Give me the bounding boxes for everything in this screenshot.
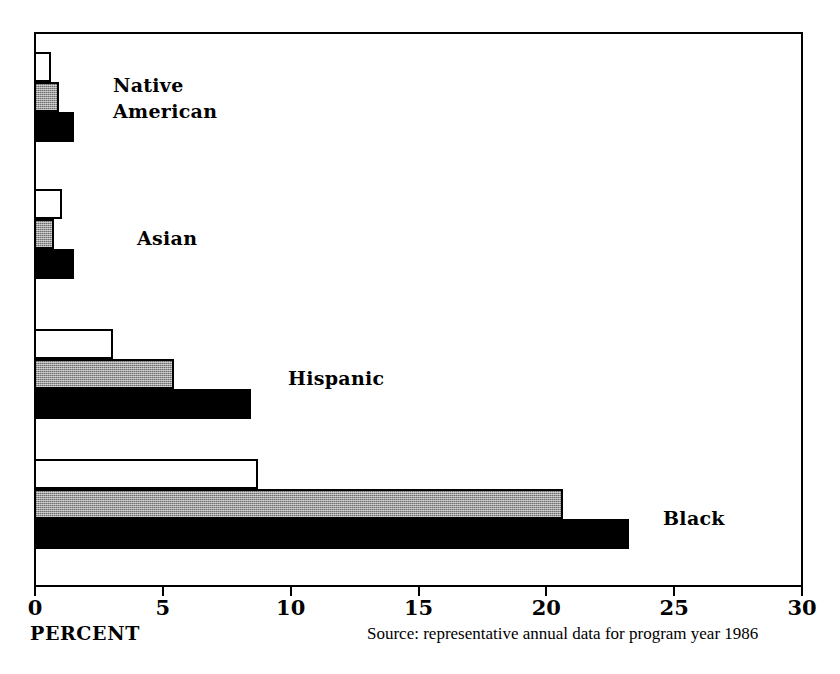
bar-black-black [36,519,629,549]
bar-asian-black [36,249,74,279]
bar-native-american-white [36,52,51,82]
bar-asian-white [36,189,62,219]
x-axis-title: PERCENT [30,622,140,644]
bar-asian-gray [36,219,54,249]
x-tick-label-10: 10 [276,596,305,620]
group-label-asian: Asian [137,225,197,251]
source-note: Source: representative annual data for p… [367,624,758,644]
bar-hispanic-white [36,329,113,359]
bar-native-american-black [36,112,74,142]
group-label-hispanic: Hispanic [288,365,384,391]
x-axis-tick-labels: 051015202530 [0,596,840,624]
x-tick-label-25: 25 [660,596,689,620]
bar-hispanic-gray [36,359,174,389]
bar-black-white [36,459,258,489]
x-tick-label-0: 0 [28,596,43,620]
x-tick-label-5: 5 [156,596,171,620]
bar-native-american-gray [36,82,59,112]
group-label-native-american: Native American [113,72,217,124]
x-tick-label-15: 15 [404,596,433,620]
group-label-black: Black [663,505,725,531]
bar-hispanic-black [36,389,251,419]
x-tick-label-20: 20 [532,596,561,620]
bar-black-gray [36,489,563,519]
bar-chart: 051015202530 PERCENT Source: representat… [0,0,840,674]
x-tick-label-30: 30 [787,596,816,620]
